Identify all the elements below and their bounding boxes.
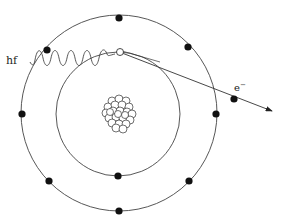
electron [45, 177, 52, 184]
electron [212, 110, 219, 117]
electron [184, 43, 191, 50]
electron [43, 46, 50, 53]
nucleus [102, 95, 136, 133]
electron [185, 177, 192, 184]
photon-label: hf [6, 54, 18, 67]
ejected-electron [230, 95, 237, 102]
inner-electron [114, 172, 121, 179]
electron [115, 207, 122, 214]
electron [18, 110, 25, 117]
vacancy-electron [117, 49, 124, 56]
electron-label: e− [234, 81, 246, 93]
electron-trajectory [122, 53, 272, 111]
atom-diagram: hf e− [0, 0, 284, 223]
electron [115, 14, 122, 21]
photon-wave [30, 50, 115, 66]
